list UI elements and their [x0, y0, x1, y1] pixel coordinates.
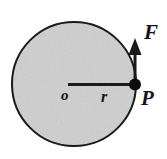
physics-figure: F P o r [0, 0, 167, 159]
point-p-label: P [141, 88, 154, 109]
force-arrow-head [129, 38, 142, 55]
center-o-label: o [61, 88, 69, 103]
figure-canvas [0, 0, 167, 159]
point-p-dot [129, 79, 141, 91]
force-label: F [144, 22, 158, 43]
radius-label: r [101, 89, 107, 105]
